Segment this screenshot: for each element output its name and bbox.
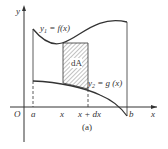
origin-label: O [14,109,21,119]
y-axis-arrow-icon [22,5,26,11]
tick-a: a [31,109,36,119]
tick-x: x [59,109,64,119]
tick-x-dx: x + dx [77,109,101,119]
y-axis-label: y [15,6,20,16]
upper-curve-label: y1 = f(x) [39,23,70,34]
x-axis-label: x [150,109,155,119]
caption: (a) [82,122,92,132]
area-between-curves-diagram: y x O y1 = f(x) y2 = g (x) dA a x x + dx… [0,0,168,149]
tick-b: b [129,109,134,119]
lower-curve-label: y2 = g (x) [87,78,122,89]
element-label: dA [71,58,83,68]
